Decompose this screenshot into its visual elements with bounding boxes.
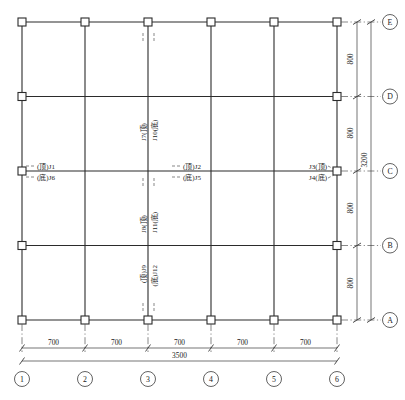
grid-bubble-5-label: 5 — [272, 375, 276, 384]
grid-bubble-D-label: D — [387, 92, 393, 101]
node-square — [18, 316, 26, 324]
grid-bubble-1-label: 1 — [20, 375, 24, 384]
bottom-overall-dimension: 3500 — [20, 351, 340, 365]
joint-label-left-c-top: (顶)J1 — [37, 163, 55, 171]
dim-horizontal-span-3: 700 — [174, 338, 185, 347]
grid-bubble-3-label: 3 — [146, 375, 150, 384]
horizontal-grid-lines — [22, 22, 337, 320]
dim-vertical-span-4: 800 — [346, 277, 355, 288]
node-square — [81, 18, 89, 26]
joint-label-right-c-top: J3(顶) — [309, 163, 328, 171]
node-square — [333, 93, 341, 101]
node-square — [333, 18, 341, 26]
joint-label-mid-c-bottom: (底)J5 — [183, 173, 201, 182]
dim-vertical-span-2: 800 — [346, 127, 355, 138]
grid-bubble-2-label: 2 — [83, 375, 87, 384]
node-square — [207, 316, 215, 324]
node-square — [144, 316, 152, 324]
joint-label-group-mid-c: (顶)J2 (底)J5 — [172, 163, 201, 182]
node-square — [207, 18, 215, 26]
right-grid-extensions — [341, 22, 381, 320]
node-square — [18, 242, 26, 250]
node-square — [18, 18, 26, 26]
joint-label-upper-v-bottom: J10(底) — [150, 119, 159, 141]
dim-horizontal-span-4: 700 — [237, 338, 248, 347]
framing-plan-drawing: 800 800 800 800 3200 E D C B A — [0, 0, 405, 400]
grid-bubble-E-label: E — [388, 18, 393, 27]
joint-label-upper-v-top: J7(顶) — [140, 122, 148, 141]
joint-label-group-lower-vertical: (顶)J9 (底)J12 — [140, 265, 159, 311]
vertical-grid-bubbles: E D C B A — [383, 15, 398, 328]
grid-bubble-4-label: 4 — [209, 375, 213, 384]
node-square — [333, 316, 341, 324]
plan-canvas: 800 800 800 800 3200 E D C B A — [0, 0, 405, 400]
leader-line — [328, 175, 334, 178]
joint-label-right-c-bottom: J4(底) — [309, 173, 328, 182]
joint-label-group-left-c: (顶)J1 (底)J6 — [26, 163, 55, 182]
grid-bubble-C-label: C — [387, 167, 392, 176]
bottom-dimension-chain: 700 700 700 700 700 — [20, 338, 340, 352]
dim-vertical-span-1: 800 — [346, 53, 355, 64]
joint-label-group-right-c: J3(顶) J4(底) — [309, 163, 334, 182]
joint-label-lower-v-bottom: (底)J12 — [150, 265, 159, 287]
node-square — [333, 242, 341, 250]
grid-bubble-B-label: B — [387, 241, 392, 250]
dim-horizontal-span-5: 700 — [300, 338, 311, 347]
dim-horizontal-total: 3500 — [172, 351, 187, 360]
horizontal-grid-bubbles: 1 2 3 4 5 6 — [15, 372, 345, 387]
joint-label-center-v-top: J8(顶) — [140, 214, 148, 233]
node-square — [18, 93, 26, 101]
joint-label-center-v-bottom: J11(底) — [150, 211, 159, 233]
node-square — [18, 167, 26, 175]
grid-bubble-6-label: 6 — [335, 375, 339, 384]
joint-label-lower-v-top: (顶)J9 — [140, 265, 148, 283]
joint-label-left-c-bottom: (底)J6 — [37, 173, 55, 182]
dim-horizontal-span-1: 700 — [48, 338, 59, 347]
node-square — [270, 316, 278, 324]
node-square — [333, 167, 341, 175]
dim-vertical-span-3: 800 — [346, 202, 355, 213]
joint-label-mid-c-top: (顶)J2 — [183, 163, 201, 171]
grid-bubble-A-label: A — [387, 316, 393, 325]
node-square — [81, 316, 89, 324]
node-square — [270, 18, 278, 26]
joint-label-group-center-vertical: J8(顶) J11(底) — [140, 178, 159, 233]
dim-horizontal-span-2: 700 — [111, 338, 122, 347]
joint-label-group-upper-vertical: J7(顶) J10(底) — [140, 33, 159, 141]
dim-vertical-total: 3200 — [360, 152, 369, 167]
node-square — [144, 18, 152, 26]
